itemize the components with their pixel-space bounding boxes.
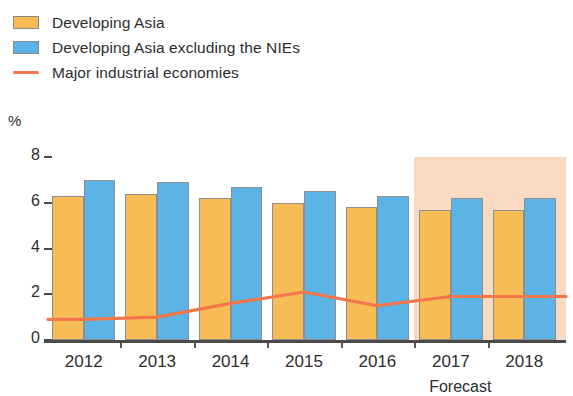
forecast-annotation-label: Forecast <box>429 378 491 396</box>
x-axis-label-2014: 2014 <box>193 352 268 372</box>
x-axis-tick-mark-2015 <box>267 343 269 348</box>
x-axis-tick-mark-2013 <box>120 343 122 348</box>
x-axis-label-2018: 2018 <box>487 352 562 372</box>
gdp-growth-bar-chart: Developing Asia Developing Asia excludin… <box>0 0 573 396</box>
plot-area: % 86420 2012201320142015201620172018 For… <box>0 0 573 396</box>
x-axis-tick-mark-2017 <box>414 343 416 348</box>
x-axis-label-2015: 2015 <box>266 352 341 372</box>
x-axis-label-2017: 2017 <box>413 352 488 372</box>
x-axis-tick-mark-2018 <box>488 343 490 348</box>
x-axis-label-2012: 2012 <box>46 352 121 372</box>
x-axis-tick-mark-2014 <box>194 343 196 348</box>
x-axis-label-2013: 2013 <box>119 352 194 372</box>
x-axis-label-2016: 2016 <box>340 352 415 372</box>
x-axis-tick-mark-2016 <box>341 343 343 348</box>
major-industrial-economies-line <box>0 0 573 396</box>
